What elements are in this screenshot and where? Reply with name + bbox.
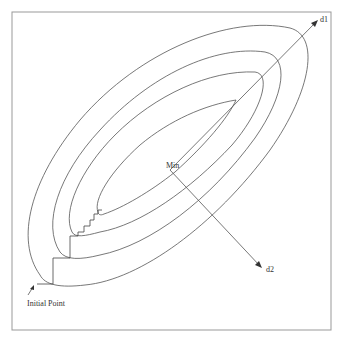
d1-label: d1 [320,15,328,24]
coordinate-descent-diagram: d1 d2 Min Initial Point [0,0,341,337]
contour-3 [53,51,281,258]
contour-1-innermost [97,100,236,215]
frame [12,12,331,330]
d2-label: d2 [266,265,274,274]
initial-point-arrowhead-icon [30,285,34,290]
initial-point-label: Initial Point [27,299,66,308]
min-label: Min [166,161,179,170]
d1-axis [170,22,316,170]
d2-axis [170,170,260,266]
